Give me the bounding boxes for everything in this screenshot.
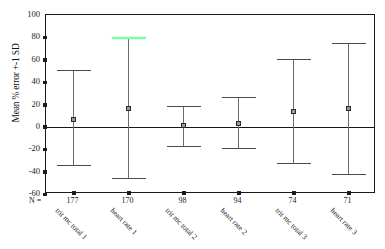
x-tick-mark	[127, 191, 131, 195]
x-category-label: heart rate 1	[108, 206, 139, 237]
mean-marker	[181, 123, 186, 128]
y-tick-mark	[43, 103, 47, 107]
y-tick-mark	[43, 170, 47, 174]
error-bar-cap-lower	[332, 174, 366, 175]
x-tick-mark	[182, 191, 186, 195]
sample-size-label: N =	[29, 196, 41, 205]
sample-size-value: 98	[163, 196, 203, 205]
error-bar-cap-upper	[277, 59, 311, 60]
x-category-label: trit mc total 1	[53, 206, 88, 241]
y-tick-label: 40	[32, 76, 41, 86]
error-bar-chart: Mean % error +-1 SD 100806040200-20-40-6…	[0, 0, 385, 249]
y-tick-mark	[43, 58, 47, 62]
x-axis-category-labels: trit mc total 1heart rate 1trit mc total…	[0, 206, 385, 249]
sample-size-row: N = 17717098947471	[0, 196, 385, 206]
plot-area: 100806040200-20-40-60	[45, 14, 375, 193]
mean-marker	[71, 117, 76, 122]
x-tick-mark	[347, 191, 351, 195]
error-bar-cap-lower	[222, 148, 256, 149]
y-tick-mark	[43, 148, 47, 152]
sample-size-value: 94	[218, 196, 258, 205]
y-tick-label: 100	[27, 9, 40, 19]
error-bar-cap-lower	[57, 165, 91, 166]
error-bar-cap-lower	[277, 163, 311, 164]
sample-size-value: 71	[328, 196, 368, 205]
error-bar-cap-upper	[332, 43, 366, 44]
x-tick-mark	[292, 191, 296, 195]
x-category-label: trit mc total 2	[163, 206, 198, 241]
error-bar-cap-lower	[112, 178, 146, 179]
mean-marker	[126, 106, 131, 111]
y-tick-label: 20	[32, 99, 41, 109]
y-tick-label: 60	[32, 54, 41, 64]
y-tick-mark	[43, 125, 47, 129]
x-category-label: heart rate 2	[218, 206, 249, 237]
zero-reference-line	[46, 127, 374, 128]
x-tick-mark	[72, 191, 76, 195]
x-tick-mark	[237, 191, 241, 195]
y-tick-label: -20	[29, 143, 40, 153]
y-tick-label: 80	[32, 31, 41, 41]
error-bar-cap-upper	[57, 70, 91, 71]
sample-size-value: 170	[108, 196, 148, 205]
y-tick-mark	[43, 36, 47, 40]
y-axis-title: Mean % error +-1 SD	[11, 23, 21, 143]
mean-marker	[236, 121, 241, 126]
mean-marker	[291, 109, 296, 114]
y-tick-label: -40	[29, 166, 40, 176]
sample-size-value: 177	[53, 196, 93, 205]
error-bar-cap-upper	[167, 106, 201, 107]
x-category-label: trit mc total 3	[273, 206, 308, 241]
mean-marker	[346, 106, 351, 111]
error-bar-cap-upper	[112, 37, 146, 39]
x-category-label: heart rate 3	[328, 206, 359, 237]
sample-size-value: 74	[273, 196, 313, 205]
error-bar-cap-upper	[222, 97, 256, 98]
error-bar-cap-lower	[167, 146, 201, 147]
y-tick-label: 0	[36, 121, 40, 131]
y-tick-mark	[43, 81, 47, 85]
